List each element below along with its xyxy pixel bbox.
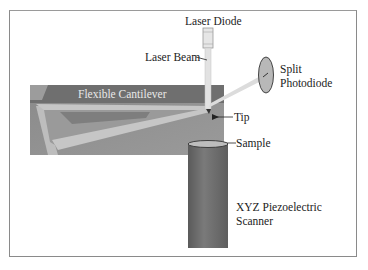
scanner-label-line1: XYZ Piezoelectric <box>236 201 322 213</box>
sample-label: Sample <box>236 137 271 149</box>
laser-beam-label: Laser Beam <box>145 51 200 63</box>
sample-disk <box>188 141 228 148</box>
scanner-label-line2: Scanner <box>236 215 273 227</box>
split-photodiode-label-line2: Photodiode <box>280 77 332 89</box>
split-photodiode-label-line1: Split <box>280 63 302 75</box>
xyz-piezo-scanner <box>188 144 228 248</box>
laser-diode <box>203 28 213 48</box>
tip-label: Tip <box>234 111 250 123</box>
laser-beam <box>205 48 211 109</box>
laser-diode-label: Laser Diode <box>185 15 242 27</box>
afm-diagram-graphic <box>0 0 368 270</box>
flexible-cantilever-label: Flexible Cantilever <box>78 88 166 100</box>
split-photodiode <box>259 57 274 93</box>
